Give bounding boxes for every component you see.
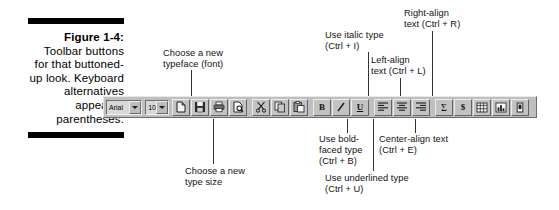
data-group: Σ $ xyxy=(435,99,530,116)
align-center-icon xyxy=(396,102,408,112)
italic-button[interactable] xyxy=(332,99,350,116)
currency-button[interactable]: $ xyxy=(454,99,472,116)
bar-chart-icon xyxy=(495,102,507,113)
figure-caption: Figure 1-4: Toolbar buttons for that but… xyxy=(28,18,124,138)
leader-line-typeface xyxy=(191,70,192,96)
leader-line-right-align xyxy=(432,31,433,96)
cut-button[interactable] xyxy=(252,99,270,116)
drawing-button[interactable] xyxy=(511,99,529,116)
align-right-icon xyxy=(415,102,427,112)
annotation-use-italic: Use italic type (Ctrl + I) xyxy=(325,30,384,52)
leader-line-type-size xyxy=(213,119,214,164)
autosum-button[interactable]: Σ xyxy=(435,99,453,116)
leader-line-italic xyxy=(368,52,369,96)
annotation-choose-typeface: Choose a new typeface (font) xyxy=(163,48,223,70)
new-document-icon xyxy=(175,101,187,113)
annotation-choose-type-size: Choose a new type size xyxy=(185,166,245,188)
drawing-icon xyxy=(514,102,526,113)
caption-rule-top xyxy=(28,18,124,24)
chart-button[interactable] xyxy=(492,99,510,116)
font-name-value[interactable]: Arial xyxy=(107,101,129,114)
annotation-right-align: Right-align text (Ctrl + R) xyxy=(404,8,460,30)
clipboard-group xyxy=(252,99,309,116)
font-name-combobox[interactable]: Arial xyxy=(106,100,142,115)
print-preview-button[interactable] xyxy=(229,99,247,116)
annotation-left-align: Left-align text (Ctrl + L) xyxy=(371,55,426,77)
dollar-icon: $ xyxy=(461,103,466,112)
bold-button[interactable]: B xyxy=(313,99,331,116)
underline-icon: U xyxy=(357,103,364,112)
save-button[interactable] xyxy=(191,99,209,116)
font-size-combobox[interactable]: 10 xyxy=(145,100,169,115)
underline-button[interactable]: U xyxy=(351,99,369,116)
chevron-down-icon[interactable] xyxy=(156,101,168,114)
font-size-value[interactable]: 10 xyxy=(146,101,156,114)
align-left-icon xyxy=(377,102,389,112)
annotation-use-bold: Use bold- faced type (Ctrl + B) xyxy=(319,134,362,166)
align-center-button[interactable] xyxy=(393,99,411,116)
print-preview-icon xyxy=(232,101,244,113)
paste-icon xyxy=(293,101,305,113)
bold-icon: B xyxy=(319,103,325,112)
paste-button[interactable] xyxy=(290,99,308,116)
copy-icon xyxy=(274,101,286,113)
leader-line-bold xyxy=(347,119,348,133)
leader-line-center-align xyxy=(415,119,416,133)
leader-line-underline xyxy=(373,119,374,171)
new-document-button[interactable] xyxy=(172,99,190,116)
italic-icon xyxy=(335,101,347,113)
sigma-icon: Σ xyxy=(441,103,447,112)
copy-button[interactable] xyxy=(271,99,289,116)
align-left-button[interactable] xyxy=(374,99,392,116)
spreadsheet-button[interactable] xyxy=(473,99,491,116)
printer-icon xyxy=(213,101,225,113)
toolbar: Arial 10 xyxy=(103,96,537,118)
caption-rule-bottom xyxy=(28,132,124,138)
annotation-use-underline: Use underlined type (Ctrl + U) xyxy=(325,173,409,195)
print-button[interactable] xyxy=(210,99,228,116)
chevron-down-icon[interactable] xyxy=(129,101,141,114)
file-group xyxy=(172,99,248,116)
spreadsheet-icon xyxy=(476,102,488,113)
figure-label: Figure 1-4: xyxy=(28,31,124,45)
alignment-group xyxy=(374,99,431,116)
font-style-group: B U xyxy=(313,99,370,116)
align-right-button[interactable] xyxy=(412,99,430,116)
scissors-icon xyxy=(255,101,267,113)
leader-line-left-align xyxy=(400,78,401,96)
annotation-center-align: Center-align text (Ctrl + E) xyxy=(379,134,448,156)
floppy-disk-icon xyxy=(194,101,206,113)
